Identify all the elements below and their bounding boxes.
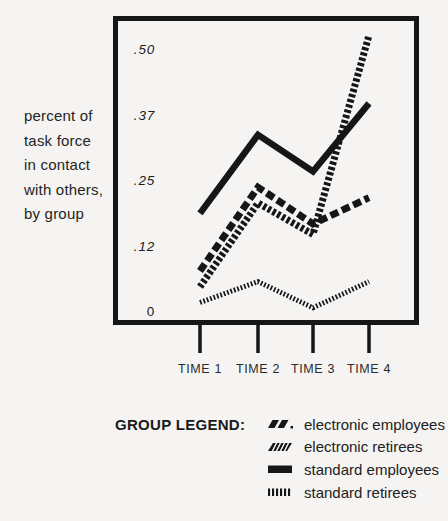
series-line-standard-retirees xyxy=(200,282,369,308)
y-tick-label: .12 xyxy=(119,239,155,254)
y-tick-label: .25 xyxy=(119,173,155,188)
legend-swatch-solid-icon xyxy=(266,463,296,475)
x-tick-label-time-3: TIME 3 xyxy=(281,362,345,376)
x-axis-ticks xyxy=(200,323,369,353)
y-tick-label: 0 xyxy=(119,304,155,319)
legend-swatch-chunky-dash-icon xyxy=(266,418,296,430)
y-tick-label: .50 xyxy=(119,42,155,57)
legend: electronic employees electronic retirees… xyxy=(266,413,445,503)
legend-label: electronic employees xyxy=(304,416,445,433)
legend-label: standard employees xyxy=(304,461,439,478)
legend-label: standard retirees xyxy=(304,484,417,501)
legend-swatch-fine-hatch-icon xyxy=(266,441,296,453)
chart-canvas xyxy=(0,0,448,400)
legend-label: electronic retirees xyxy=(304,438,422,455)
y-tick-label: .37 xyxy=(119,108,155,123)
legend-item-standard-retirees: standard retirees xyxy=(266,481,445,504)
x-tick-label-time-4: TIME 4 xyxy=(337,362,401,376)
legend-item-electronic-employees: electronic employees xyxy=(266,413,445,436)
series-lines xyxy=(200,35,369,308)
legend-title: GROUP LEGEND: xyxy=(115,416,245,433)
series-line-electronic-employees xyxy=(200,187,369,271)
legend-item-electronic-retirees: electronic retirees xyxy=(266,436,445,459)
figure: percent of task force in contact with ot… xyxy=(0,0,448,521)
x-tick-label-time-1: TIME 1 xyxy=(168,362,232,376)
legend-swatch-vertical-hatch-icon xyxy=(266,486,296,498)
plot-frame xyxy=(116,19,417,323)
series-line-electronic-retirees xyxy=(200,35,369,286)
legend-item-standard-employees: standard employees xyxy=(266,458,445,481)
